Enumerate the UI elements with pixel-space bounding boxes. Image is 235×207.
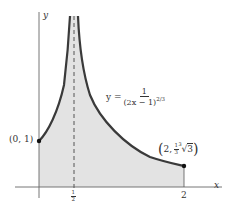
- point-label-0-1: (0, 1): [9, 135, 33, 144]
- root-index: 3: [179, 142, 182, 147]
- function-denominator: (2x − 1)2/3: [124, 97, 166, 107]
- y-axis-label: y: [43, 11, 48, 20]
- cube-root: 3√3: [182, 145, 193, 154]
- denominator-base: (2x − 1): [124, 98, 157, 107]
- function-fraction: 1 (2x − 1)2/3: [124, 88, 166, 107]
- denominator-exponent: 2/3: [156, 96, 165, 102]
- point-x: 2,: [163, 145, 172, 154]
- paren-close: ): [193, 142, 198, 156]
- point-0-1: [37, 139, 41, 143]
- half-den: 2: [72, 197, 76, 203]
- x-tick-label-half: 1 2: [71, 190, 76, 202]
- x-tick-label-2: 2: [181, 191, 187, 200]
- x-axis-label: x: [214, 181, 219, 190]
- function-label: y = 1 (2x − 1)2/3: [106, 88, 165, 107]
- function-lhs: y =: [106, 93, 122, 102]
- point-2: [182, 164, 186, 168]
- radicand: 3: [187, 143, 193, 154]
- function-numerator: 1: [140, 88, 149, 97]
- point-label-2: ( 2, 1 3 3√3 ): [158, 142, 199, 156]
- coef-den: 3: [175, 150, 179, 156]
- half-fraction: 1 2: [71, 190, 76, 202]
